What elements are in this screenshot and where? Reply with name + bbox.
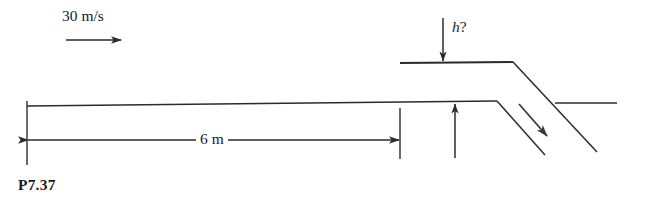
height-question-mark: ? [460, 18, 467, 35]
main-surface-line [27, 101, 497, 106]
figure-caption: P7.37 [18, 177, 56, 193]
figure-diagram-canvas [0, 0, 645, 204]
upper-plate-line [400, 62, 513, 63]
velocity-label: 30 m/s [62, 8, 104, 24]
upper-chute-wall [513, 62, 597, 152]
span-dimension-label: 6 m [196, 131, 228, 147]
height-query-label: h? [452, 19, 467, 35]
lower-chute-wall [497, 101, 545, 155]
figure-p737: 30 m/s h? 6 m P7.37 [0, 0, 645, 204]
height-symbol: h [452, 18, 460, 35]
